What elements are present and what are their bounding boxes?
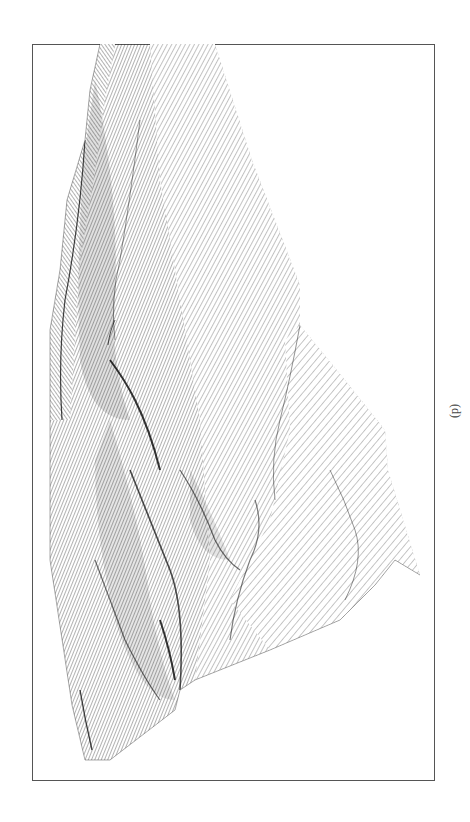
terrain-surface <box>30 40 450 780</box>
terrain-wireframe <box>0 0 470 822</box>
figure-caption: (d) <box>447 401 465 421</box>
